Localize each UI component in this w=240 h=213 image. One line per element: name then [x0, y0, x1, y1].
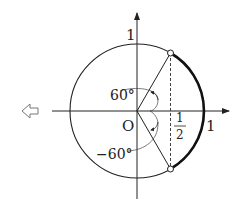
point-lower [168, 166, 174, 172]
fraction-denominator: 2 [176, 128, 184, 142]
left-arrow-icon [22, 104, 38, 118]
y-axis-tick-label: 1 [126, 26, 136, 44]
x-axis-tick-label: 1 [206, 117, 216, 135]
angle-arc-60-arrow [151, 92, 158, 100]
radius-minus-60 [137, 111, 171, 169]
angle-arc-minus-60-arrow [151, 122, 158, 130]
angle-lower-label: −60° [96, 146, 133, 162]
point-upper [168, 50, 174, 56]
angle-upper-label: 60° [110, 87, 135, 103]
origin-label: O [122, 117, 134, 135]
fraction-numerator: 1 [176, 111, 184, 125]
unit-circle-diagram: 1 1 O 60° −60° 1 2 [0, 0, 240, 213]
radius-60 [137, 53, 171, 111]
